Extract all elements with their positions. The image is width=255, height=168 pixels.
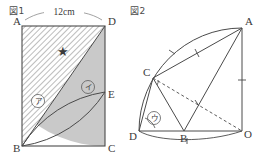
vertex-label-d: D: [108, 15, 116, 27]
segment-cd: [139, 78, 153, 131]
figure-2-drawing: ウ A C D B O: [127, 0, 255, 168]
angle-mark-c: [157, 80, 158, 85]
figure-1-panel: 図1: [0, 0, 127, 168]
vertex-label-d2: D: [129, 130, 137, 142]
figure-2-panel: 図2: [127, 0, 255, 168]
figure-1-drawing: 12cm ★ ア イ A B C D E: [0, 0, 127, 168]
vertex-label-b2: B: [180, 132, 187, 144]
region-u-label: ウ: [151, 114, 158, 123]
arc-helper: [6, 26, 22, 146]
star-marker: ★: [57, 44, 69, 59]
figure-sheet: 図1: [0, 0, 255, 168]
dimension-label: 12cm: [53, 7, 75, 17]
vertex-label-c2: C: [143, 66, 150, 78]
arc-dbo: [139, 131, 242, 140]
tick-co: [195, 100, 199, 106]
vertex-label-a: A: [13, 15, 21, 27]
vertex-label-b: B: [13, 142, 20, 154]
vertex-label-e: E: [108, 88, 115, 100]
vertex-label-o2: O: [244, 128, 252, 140]
vertex-label-c: C: [108, 142, 115, 154]
tick-arc-da: [169, 50, 175, 54]
segment-ba: [184, 28, 242, 131]
region-i-label: イ: [85, 83, 92, 92]
vertex-label-a2: A: [245, 15, 253, 27]
region-a-label: ア: [35, 97, 42, 106]
